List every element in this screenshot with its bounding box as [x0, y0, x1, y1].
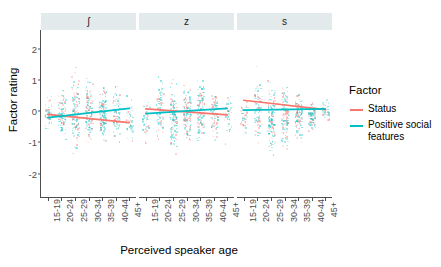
x-tick-mark: [146, 198, 147, 201]
x-tick-label: 45+: [231, 202, 241, 222]
x-tick-mark: [257, 198, 258, 201]
x-tick-mark: [200, 198, 201, 201]
x-tick-label: 35-39: [106, 202, 116, 222]
x-tick-mark: [285, 198, 286, 201]
x-tick-label: 35-39: [204, 202, 214, 222]
x-tick-mark: [173, 198, 174, 201]
trend-lines: [41, 30, 136, 197]
trend-lines: [139, 30, 234, 197]
x-tick-label: 45+: [133, 202, 143, 222]
chart-figure: Factor rating 210-1-2 ʃ15-1920-2425-2930…: [0, 0, 441, 267]
legend-items: StatusPositive social features: [349, 103, 441, 142]
facet-strip-label: z: [139, 13, 234, 30]
legend-color-swatch: [349, 120, 364, 131]
x-tick-mark: [325, 198, 326, 201]
x-tick-label: 30-34: [289, 202, 299, 222]
x-tick-label: 15-19: [248, 202, 258, 222]
legend-item[interactable]: Status: [349, 103, 441, 115]
x-tick-mark: [187, 198, 188, 201]
x-tick-label: 30-34: [93, 202, 103, 222]
x-tick-label: 40-44: [316, 202, 326, 222]
trend-line-status: [244, 100, 325, 109]
x-tick-label: 25-29: [177, 202, 187, 222]
x-tick-label: 40-44: [218, 202, 228, 222]
x-tick-mark: [214, 198, 215, 201]
facet-strip-label: ʃ: [41, 13, 136, 30]
x-tick-mark: [159, 198, 160, 201]
x-tick-mark: [48, 198, 49, 201]
x-tick-mark: [312, 198, 313, 201]
trend-lines: [237, 30, 332, 197]
legend-item-label: Status: [368, 103, 396, 115]
legend: Factor StatusPositive social features: [349, 84, 441, 146]
x-tick-mark: [102, 198, 103, 201]
x-tick-label: 15-19: [150, 202, 160, 222]
x-axis-title: Perceived speaker age: [36, 244, 322, 256]
x-tick-label: 30-34: [191, 202, 201, 222]
facet-strip-label: s: [237, 13, 332, 30]
facet-panel: [139, 30, 234, 197]
x-tick-mark: [75, 198, 76, 201]
x-tick-mark: [61, 198, 62, 201]
y-axis-line: [40, 30, 41, 198]
trend-line-positive-social-features: [48, 108, 129, 117]
facet-panel: [237, 30, 332, 197]
x-tick-mark: [271, 198, 272, 201]
x-tick-label: 20-24: [65, 202, 75, 222]
x-tick-label: 35-39: [302, 202, 312, 222]
y-axis-ticks: 210-1-2: [18, 0, 40, 267]
x-tick-label: 40-44: [120, 202, 130, 222]
x-tick-mark: [116, 198, 117, 201]
facet-panel: [41, 30, 136, 197]
x-tick-label: 45+: [329, 202, 339, 222]
x-tick-mark: [244, 198, 245, 201]
legend-title: Factor: [349, 84, 441, 96]
x-tick-mark: [298, 198, 299, 201]
x-tick-mark: [227, 198, 228, 201]
x-tick-label: 25-29: [79, 202, 89, 222]
x-tick-label: 15-19: [52, 202, 62, 222]
x-tick-label: 25-29: [275, 202, 285, 222]
legend-item[interactable]: Positive social features: [349, 119, 441, 142]
x-tick-label: 20-24: [261, 202, 271, 222]
legend-color-swatch: [349, 104, 364, 115]
trend-line-positive-social-features: [244, 109, 325, 110]
legend-item-label: Positive social features: [368, 119, 441, 142]
x-tick-mark: [129, 198, 130, 201]
x-tick-label: 20-24: [163, 202, 173, 222]
x-tick-mark: [89, 198, 90, 201]
